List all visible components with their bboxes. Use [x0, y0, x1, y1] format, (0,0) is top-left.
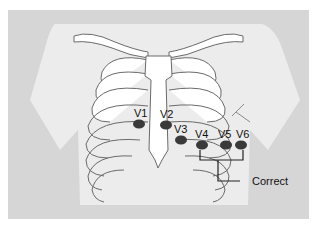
electrode-v6	[235, 141, 247, 150]
label-v5: V5	[218, 129, 231, 140]
electrode-v3	[175, 136, 187, 145]
label-v1: V1	[134, 108, 147, 119]
label-v6: V6	[236, 129, 249, 140]
electrode-v2	[160, 121, 172, 130]
electrode-v5	[220, 141, 232, 150]
electrode-v4	[196, 141, 208, 150]
ecg-lead-placement-diagram: V1 V2 V3 V4 V5 V6 Correct	[0, 0, 317, 239]
correct-annotation: Correct	[252, 176, 288, 187]
label-v3: V3	[174, 124, 187, 135]
label-v2: V2	[160, 109, 173, 120]
electrode-v1	[133, 120, 145, 129]
label-v4: V4	[195, 129, 208, 140]
